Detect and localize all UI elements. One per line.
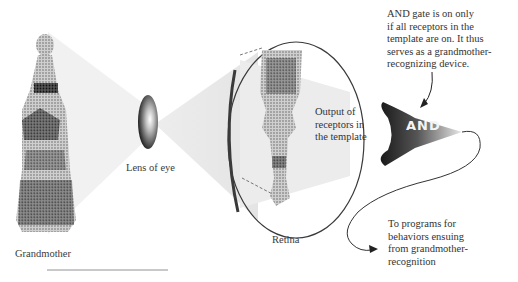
label-lens-of-eye: Lens of eye <box>126 162 175 174</box>
note-arrow <box>424 72 432 104</box>
output-arrowhead-icon <box>369 245 378 253</box>
label-output-of-receptors: Output of receptors in the template <box>315 106 367 144</box>
output-annotation: To programs for behaviors ensuing from g… <box>388 218 468 268</box>
label-grandmother: Grandmother <box>15 248 71 260</box>
and-gate <box>381 102 462 166</box>
label-retina: Retina <box>272 234 299 246</box>
and-gate-label: AND <box>406 118 441 133</box>
lens-of-eye <box>138 95 158 149</box>
gate-annotation: AND gate is on only if all receptors in … <box>387 8 491 71</box>
grandmother-cell-diagram: Grandmother Lens of eye Retina Output of… <box>0 0 518 282</box>
